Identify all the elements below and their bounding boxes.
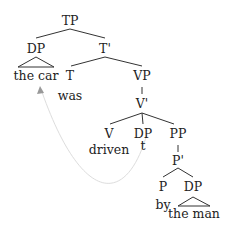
node-dp-subject: DP	[27, 43, 45, 56]
node-t-bar: T'	[99, 43, 111, 56]
syntax-tree-diagram: TP DP the car T' T was VP V' V driven DP…	[0, 0, 232, 231]
arrowhead-icon	[37, 86, 44, 94]
node-p-bar: P'	[172, 155, 184, 168]
node-tp: TP	[62, 15, 79, 28]
node-v: V	[104, 128, 113, 141]
trace: t	[140, 140, 145, 153]
subject-words: the car	[14, 70, 59, 83]
node-p: P	[159, 181, 167, 194]
by-words: the man	[168, 208, 220, 221]
node-pp: PP	[170, 128, 187, 141]
node-t: T	[66, 70, 74, 83]
v-word: driven	[89, 144, 130, 157]
node-dp-by: DP	[184, 181, 202, 194]
node-v-bar: V'	[136, 98, 148, 111]
node-vp: VP	[133, 70, 150, 83]
t-word: was	[58, 90, 83, 103]
tree-branches	[0, 0, 232, 231]
movement-arrow	[42, 92, 147, 183]
